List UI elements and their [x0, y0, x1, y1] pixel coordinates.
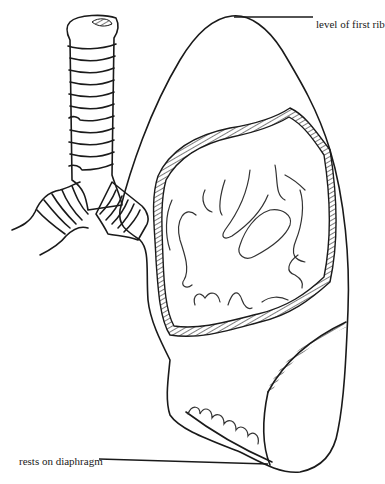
label-rests-on-diaphragm: rests on diaphragm	[19, 456, 103, 467]
lower-lobe	[186, 322, 346, 465]
hilum-region	[154, 108, 336, 336]
label-level-of-first-rib: level of first rib	[316, 19, 385, 30]
leader-line-bottom	[99, 459, 268, 464]
bronchus-right	[96, 182, 148, 240]
bronchus-left	[12, 182, 88, 255]
trachea	[67, 15, 122, 210]
